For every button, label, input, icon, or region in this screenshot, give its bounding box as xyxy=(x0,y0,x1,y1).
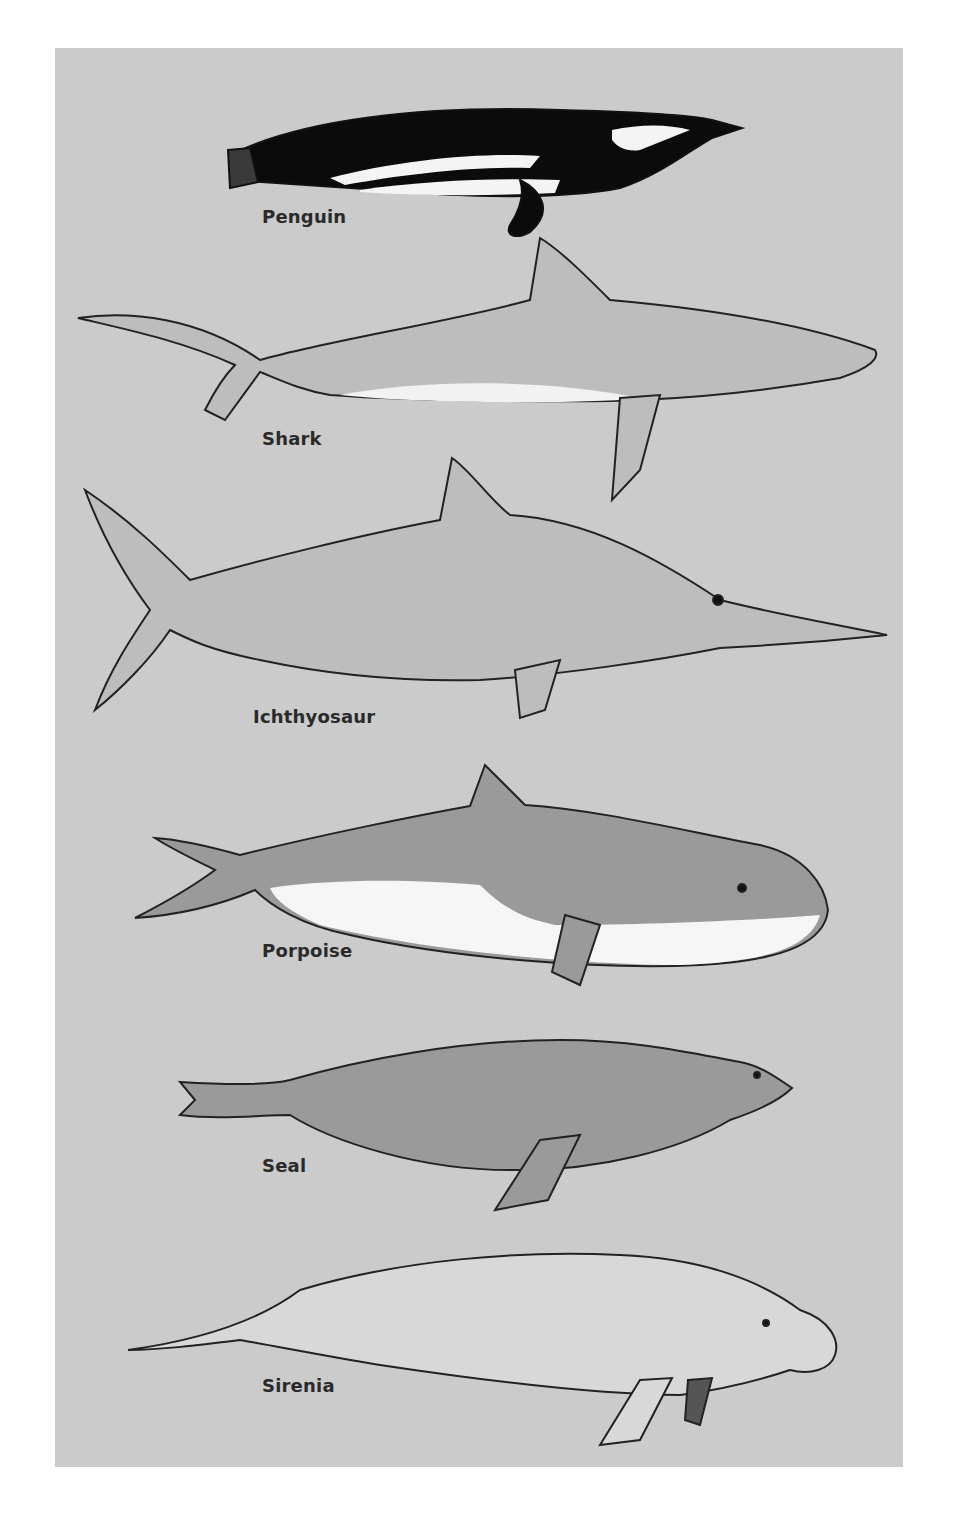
seal-drawing xyxy=(180,1040,792,1210)
ichthyosaur-drawing xyxy=(85,458,887,718)
sirenia-label: Sirenia xyxy=(262,1375,335,1396)
porpoise-drawing xyxy=(135,765,828,985)
animal-illustrations xyxy=(0,0,960,1518)
sirenia-drawing xyxy=(128,1254,836,1445)
shark-drawing xyxy=(78,238,876,500)
ichthyosaur-label: Ichthyosaur xyxy=(253,706,375,727)
porpoise-label: Porpoise xyxy=(262,940,352,961)
penguin-label: Penguin xyxy=(262,206,346,227)
shark-label: Shark xyxy=(262,428,322,449)
seal-label: Seal xyxy=(262,1155,306,1176)
